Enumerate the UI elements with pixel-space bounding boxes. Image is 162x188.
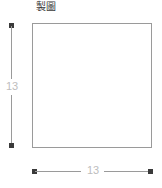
dimension-line: [11, 95, 12, 145]
width-dimension: 13: [32, 171, 153, 172]
dimension-tick-icon: [9, 143, 14, 148]
dimension-tick-icon: [148, 169, 153, 174]
dimension-line: [35, 171, 82, 172]
technical-drawing-canvas: 製圖 13 13: [0, 0, 162, 188]
square-shape: [32, 23, 152, 148]
height-dimension-label: 13: [1, 79, 23, 93]
dimension-line: [11, 26, 12, 81]
dimension-line: [104, 171, 150, 172]
drawing-title: 製圖: [36, 1, 56, 13]
width-dimension-label: 13: [81, 163, 105, 177]
height-dimension: 13: [11, 23, 12, 148]
